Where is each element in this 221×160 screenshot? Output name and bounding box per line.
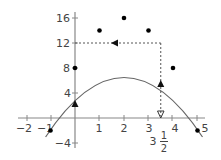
fraction-numerator: 1 <box>161 130 167 141</box>
x-tick-label-neg2: −2 <box>16 122 32 135</box>
x-tick-label-4: 4 <box>172 122 179 135</box>
y-tick-label-neg4: −4 <box>55 137 71 150</box>
point-2 <box>122 16 127 21</box>
x-tick-label-2: 2 <box>121 122 128 135</box>
point-0 <box>73 66 78 71</box>
up-arrow-icon-vertical <box>157 80 164 87</box>
x-tick-label-5: 5 <box>202 122 209 135</box>
point-neg1 <box>48 128 53 133</box>
mixed-number-whole: 3 <box>150 135 157 148</box>
x-tick-label-1: 1 <box>96 122 103 135</box>
quadratic-chart: 16 12 8 4 −4 −2 −1 1 2 3 4 5 3 1 2 <box>0 0 221 160</box>
y-tick-label-4: 4 <box>64 87 71 100</box>
x-tick-label-3: 3 <box>146 122 153 135</box>
point-4 <box>171 66 176 71</box>
point-1 <box>97 28 102 33</box>
point-5 <box>195 128 200 133</box>
fraction-denominator: 2 <box>161 143 167 154</box>
point-3 <box>146 28 151 33</box>
left-arrow-icon <box>111 40 118 47</box>
y-tick-label-12: 12 <box>56 37 70 50</box>
y-tick-label-8: 8 <box>63 62 70 75</box>
y-tick-label-16: 16 <box>56 12 70 25</box>
